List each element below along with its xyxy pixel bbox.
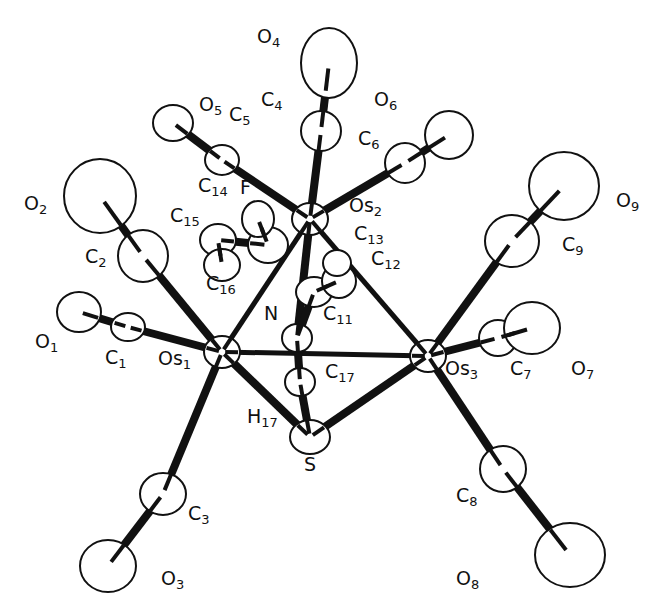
bond-stub — [250, 243, 264, 244]
bond-stub — [310, 203, 312, 216]
atom-O4 — [301, 28, 357, 98]
bond-stub — [219, 243, 221, 256]
label-C4: C4 — [261, 90, 283, 112]
label-O9: O9 — [616, 191, 639, 213]
bond-stub — [321, 111, 323, 127]
label-C2: C2 — [85, 247, 107, 269]
atom-C9 — [485, 215, 539, 267]
label-H17: H17 — [247, 407, 278, 429]
label-C16: C16 — [206, 274, 236, 296]
label-C11: C11 — [323, 304, 353, 326]
atom-O7 — [504, 302, 560, 354]
label-C8: C8 — [456, 486, 478, 508]
label-C14: C14 — [198, 176, 228, 198]
label-C17: C17 — [325, 362, 355, 384]
atom-C3 — [140, 473, 186, 515]
label-O5: O5 — [199, 95, 222, 117]
atom-S — [290, 420, 330, 454]
label-O8: O8 — [456, 569, 479, 591]
label-Os1: Os1 — [158, 349, 191, 371]
atom-C5 — [205, 145, 239, 175]
label-C13: C13 — [354, 224, 384, 246]
label-C3: C3 — [188, 504, 210, 526]
label-C5: C5 — [229, 105, 251, 127]
label-C15: C15 — [170, 206, 200, 228]
label-O1: O1 — [35, 332, 58, 354]
atom-O5 — [153, 105, 193, 141]
label-C7: C7 — [510, 359, 532, 381]
atom-O9 — [529, 152, 599, 220]
atom-C6 — [385, 143, 425, 183]
atom-O6 — [425, 111, 473, 159]
bond-stub — [307, 420, 309, 433]
label-Os2: Os2 — [349, 196, 382, 218]
bond-Os1-Os3 — [222, 352, 428, 356]
atom-C13 — [323, 250, 351, 276]
label-C12: C12 — [371, 249, 401, 271]
label-O4: O4 — [257, 27, 280, 49]
atom-C2 — [118, 230, 168, 282]
label-F: F — [240, 178, 251, 197]
label-N: N — [264, 304, 278, 323]
bond-stub — [326, 69, 329, 91]
bond-stub — [308, 222, 309, 235]
label-O6: O6 — [374, 90, 397, 112]
bond-stub — [221, 240, 234, 241]
atom-C8 — [480, 446, 526, 492]
bond-stub — [301, 385, 303, 396]
bond-stub — [319, 135, 321, 151]
bond-stub — [297, 341, 298, 352]
atom-C1 — [111, 313, 145, 341]
bond-stub — [299, 368, 300, 379]
label-S: S — [304, 455, 316, 474]
atom-F — [242, 201, 274, 237]
label-Os3: Os3 — [445, 359, 478, 381]
atom-O8 — [535, 523, 605, 587]
label-O3: O3 — [161, 569, 184, 591]
label-C6: C6 — [358, 129, 380, 151]
atom-O1 — [57, 292, 101, 332]
label-O7: O7 — [571, 359, 594, 381]
label-C1: C1 — [105, 348, 127, 370]
label-C9: C9 — [562, 235, 584, 257]
atom-O3 — [80, 540, 136, 592]
bond-stub — [131, 328, 142, 331]
atom-O2 — [64, 159, 136, 233]
label-O2: O2 — [24, 194, 47, 216]
bond-Os1-C3 — [163, 352, 222, 494]
